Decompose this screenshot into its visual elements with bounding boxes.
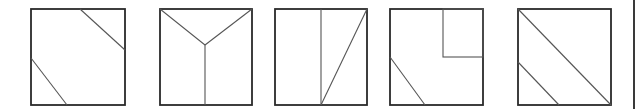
square-frame [160,9,252,105]
partition-line [160,9,205,45]
square-3 [275,9,367,105]
square-4 [390,9,483,105]
partition-line [321,9,367,105]
partition-line [518,62,559,105]
square-2 [160,9,252,105]
square-frame [31,9,125,105]
partition-line [31,58,67,105]
inner-rectangle [443,9,483,57]
squares-group [31,9,611,105]
figure-canvas [0,0,637,109]
partition-line [80,9,125,50]
square-5 [518,9,611,105]
square-1 [31,9,125,105]
partition-line [390,57,425,105]
partition-line [518,9,611,105]
partition-line [205,9,252,45]
